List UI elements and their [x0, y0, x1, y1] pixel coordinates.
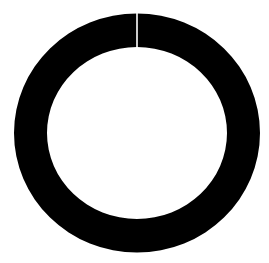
- donut-slice: [14, 13, 260, 252]
- donut-slices: [14, 13, 260, 252]
- donut-chart-svg: [0, 0, 269, 263]
